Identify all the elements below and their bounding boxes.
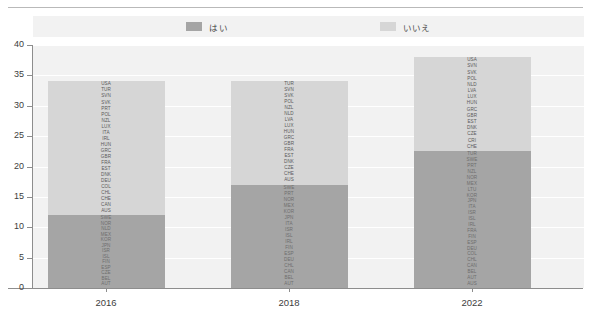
y-axis-tick [27,288,32,289]
y-axis-tick [27,45,32,46]
x-axis-tick [472,288,473,292]
y-axis-tick-label: 35 [0,69,24,79]
y-axis-tick [27,136,32,137]
legend-swatch-yes [186,22,202,31]
top-divider [8,7,583,8]
plot-area: USATURSVNSVKPRTPOLNZLLUXITAIRLHUNGRCGBRF… [33,45,584,288]
y-axis-tick-label: 30 [0,100,24,110]
country-code: AUS [467,281,477,287]
y-axis-tick-label: 10 [0,221,24,231]
legend-label-no: いいえ [403,21,431,33]
bar-segment-no-2016[interactable]: USATURSVNSVKPRTPOLNZLLUXITAIRLHUNGRCGBRF… [48,81,165,215]
y-axis-tick [27,227,32,228]
x-axis-line [8,288,583,289]
country-code-list: SWENORNLDMEXKORJPNISRISLFINESPCZEBELAUT [48,215,165,288]
x-axis-tick-label: 2022 [432,297,512,308]
country-code: CHE [467,144,477,150]
y-axis-tick-label: 15 [0,191,24,201]
country-code-list: TURSVNSVKPOLNZLNLDLVALUXHUNGRCGBRFRAESTD… [231,81,348,184]
bar-segment-no-2022[interactable]: USASVNSVKPOLNLDLVALUXHUNGRCGBRESTDNKCZEC… [414,57,531,151]
x-axis-tick-label: 2018 [249,297,329,308]
legend-item-yes[interactable]: はい [186,21,227,33]
country-code-list: USASVNSVKPOLNLDLVALUXHUNGRCGBRESTDNKCZEC… [414,57,531,151]
x-axis-tick-label: 2016 [66,297,146,308]
bar-segment-yes-2016[interactable]: SWENORNLDMEXKORJPNISRISLFINESPCZEBELAUT [48,215,165,288]
y-axis-tick-label: 0 [0,282,24,292]
y-axis-tick [27,258,32,259]
y-axis-line [32,45,33,288]
country-code: AUT [284,281,294,287]
legend-label-yes: はい [209,21,227,33]
bar-segment-yes-2022[interactable]: TURSWEPRTNZLNORMEXLTUKORJPNITAISRISLIRLF… [414,151,531,288]
x-axis-tick [289,288,290,292]
country-code-list: TURSWEPRTNZLNORMEXLTUKORJPNITAISRISLIRLF… [414,151,531,288]
y-axis-tick [27,106,32,107]
y-axis-tick [27,75,32,76]
bar-segment-no-2018[interactable]: TURSVNSVKPOLNZLNLDLVALUXHUNGRCGBRFRAESTD… [231,81,348,184]
bar-2022[interactable]: USASVNSVKPOLNLDLVALUXHUNGRCGBRESTDNKCZEC… [414,57,531,288]
y-axis-tick [27,197,32,198]
y-axis-tick-label: 25 [0,130,24,140]
country-code: AUT [101,281,111,287]
legend-swatch-no [380,22,396,31]
country-code: AUS [284,177,294,183]
chart-legend: はい いいえ [33,16,584,37]
y-axis-tick-label: 40 [0,39,24,49]
x-axis-tick [106,288,107,292]
bar-2018[interactable]: TURSVNSVKPOLNZLNLDLVALUXHUNGRCGBRFRAESTD… [231,81,348,288]
chart-root: はい いいえ USATURSVNSVKPRTPOLNZLLUXITAIRLHUN… [0,0,598,322]
bar-segment-yes-2018[interactable]: SWEPRTNORMEXKORJPNITAISRISLIRLFINESPDEUC… [231,185,348,288]
country-code: AUS [101,208,111,214]
y-axis-labels: 4035302520151050 [0,0,24,322]
gridline [33,45,584,46]
bar-2016[interactable]: USATURSVNSVKPRTPOLNZLLUXITAIRLHUNGRCGBRF… [48,81,165,288]
legend-item-no[interactable]: いいえ [380,21,431,33]
country-code-list: SWEPRTNORMEXKORJPNITAISRISLIRLFINESPDEUC… [231,185,348,288]
y-axis-tick [27,167,32,168]
y-axis-tick-label: 20 [0,161,24,171]
country-code-list: USATURSVNSVKPRTPOLNZLLUXITAIRLHUNGRCGBRF… [48,81,165,215]
y-axis-tick-label: 5 [0,252,24,262]
